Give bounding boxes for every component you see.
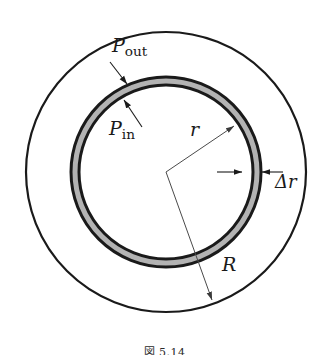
figure-root: Pout Pin r R Δr 図 5.14	[0, 0, 329, 355]
label-delta-r: Δr	[274, 171, 298, 192]
label-p-in-base: P	[108, 117, 123, 139]
label-p-in-subscript: in	[122, 126, 135, 142]
figure-caption: 図 5.14	[0, 343, 329, 355]
label-p-out-subscript: out	[125, 43, 148, 59]
figure-caption-strip: 図 5.14	[0, 343, 329, 355]
annulus-diagram: Pout Pin r R Δr	[0, 0, 329, 355]
label-p-out-base: P	[111, 34, 126, 56]
label-radius-R: R	[221, 253, 236, 275]
